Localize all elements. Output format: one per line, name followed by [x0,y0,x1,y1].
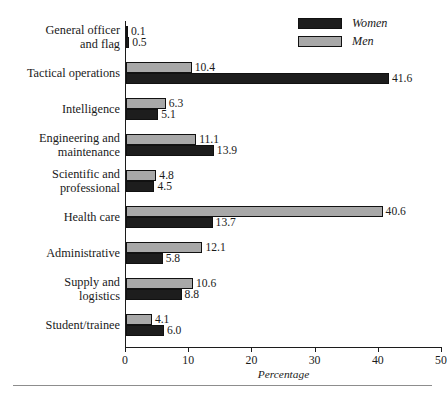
plot-area: General officer and flag0.10.5Tactical o… [125,22,441,347]
x-axis-tick-label: 10 [182,353,194,367]
category-label: Administrative [0,246,120,260]
category-group: General officer and flag0.10.5 [125,26,441,48]
bar-value-label: 5.1 [161,109,176,121]
category-group: Supply and logistics10.68.8 [125,278,441,300]
category-label: Scientific and professional [0,167,120,195]
bar-value-label: 13.7 [216,217,236,229]
bar-men: 12.1 [126,242,202,253]
bar-men: 6.3 [126,98,166,109]
footer-rule [13,385,432,386]
bar-women: 5.1 [126,109,158,120]
bar-men: 4.8 [126,170,156,181]
x-axis-tick [441,348,442,352]
bar-women: 6.0 [126,325,164,336]
x-axis-tick-label: 40 [372,353,384,367]
category-group: Engineering and maintenance11.113.9 [125,134,441,156]
bar-value-label: 5.8 [166,253,181,265]
bar-women: 13.9 [126,145,214,156]
category-group: Administrative12.15.8 [125,242,441,264]
x-axis-title: Percentage [125,368,442,380]
bar-men: 0.1 [126,26,128,37]
category-group: Tactical operations10.441.6 [125,62,441,84]
bar-value-label: 12.1 [205,242,225,254]
bar-value-label: 4.5 [157,181,172,193]
x-axis-tick [315,348,316,352]
bar-women: 0.5 [126,37,129,48]
category-label: Tactical operations [0,66,120,80]
bar-women: 41.6 [126,73,389,84]
category-label: General officer and flag [0,23,120,51]
x-axis-line [125,347,442,348]
bar-value-label: 6.0 [167,325,182,337]
x-axis-tick [125,348,126,352]
x-axis-tick [251,348,252,352]
x-axis-tick [188,348,189,352]
category-label: Student/trainee [0,318,120,332]
x-axis-tick-label: 0 [122,353,128,367]
bar-value-label: 40.6 [386,206,406,218]
category-label: Supply and logistics [0,275,120,303]
x-axis-tick-label: 50 [435,353,447,367]
x-axis-tick-label: 30 [309,353,321,367]
bar-value-label: 8.8 [185,289,200,301]
bar-men: 10.4 [126,62,192,73]
bar-value-label: 41.6 [392,73,412,85]
legend-label: Women [352,16,387,31]
bar-value-label: 10.4 [195,62,215,74]
bar-women: 4.5 [126,181,154,192]
category-group: Student/trainee4.16.0 [125,314,441,336]
category-label: Intelligence [0,102,120,116]
category-label: Health care [0,210,120,224]
category-group: Intelligence6.35.1 [125,98,441,120]
category-group: Health care40.613.7 [125,206,441,228]
category-group: Scientific and professional4.84.5 [125,170,441,192]
bar-women: 13.7 [126,217,213,228]
x-axis-tick-label: 20 [245,353,257,367]
bar-women: 5.8 [126,253,163,264]
legend-swatch-men [298,36,342,47]
bar-men: 11.1 [126,134,196,145]
bar-value-label: 13.9 [217,145,237,157]
bar-men: 40.6 [126,206,383,217]
category-label: Engineering and maintenance [0,131,120,159]
bar-value-label: 0.5 [132,37,147,49]
bar-men: 10.6 [126,278,193,289]
legend-label: Men [352,34,374,49]
bar-men: 4.1 [126,314,152,325]
legend-swatch-women [298,18,342,29]
bar-women: 8.8 [126,289,182,300]
x-axis-tick [378,348,379,352]
